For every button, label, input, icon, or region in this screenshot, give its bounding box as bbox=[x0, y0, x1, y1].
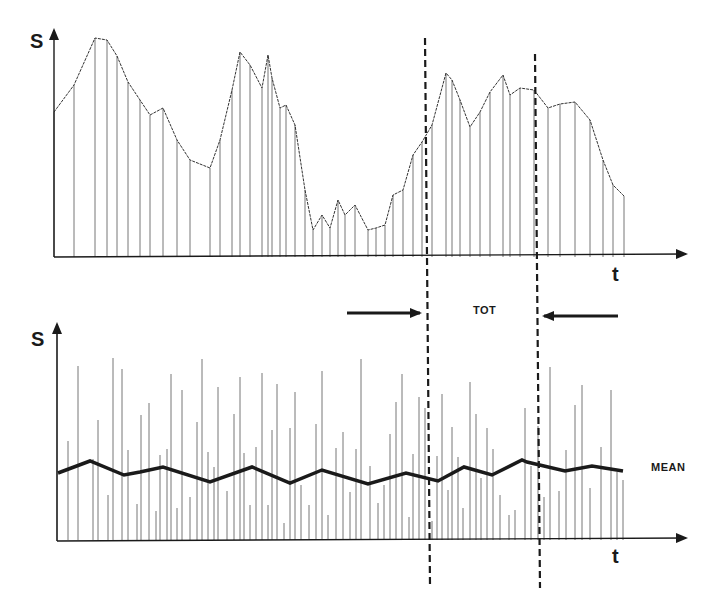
top-sample-stems bbox=[54, 38, 624, 257]
top-y-axis-label: S bbox=[30, 30, 43, 53]
bottom-sample-stems bbox=[68, 358, 623, 540]
bottom-x-axis-label: t bbox=[612, 545, 619, 568]
signal-diagram bbox=[0, 0, 712, 605]
top-x-axis-label: t bbox=[612, 263, 619, 286]
bottom-signal-panel bbox=[57, 324, 686, 541]
window-label-tot: TOT bbox=[473, 304, 496, 316]
top-signal-panel bbox=[54, 30, 686, 257]
bottom-y-axis-label: S bbox=[31, 328, 44, 351]
bottom-x-axis bbox=[57, 538, 686, 541]
window-start-dashed-line bbox=[425, 38, 430, 585]
signal-envelope-curve bbox=[54, 38, 624, 230]
mean-label: MEAN bbox=[651, 461, 685, 473]
top-x-axis bbox=[54, 254, 686, 257]
window-end-dashed-line bbox=[535, 54, 540, 588]
